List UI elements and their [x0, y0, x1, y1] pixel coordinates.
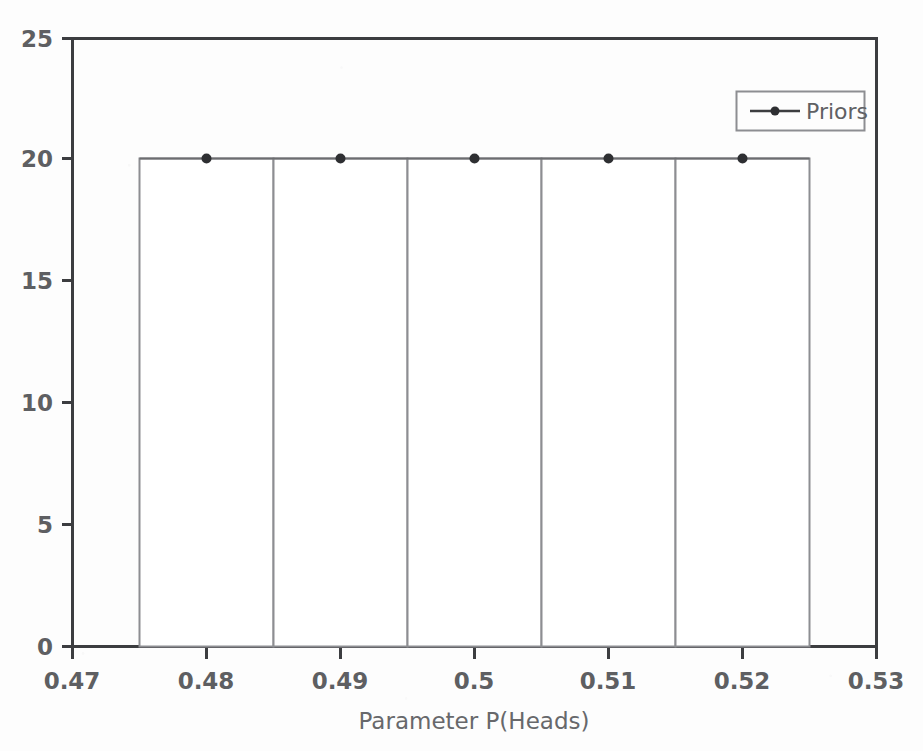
y-tick-label-25: 25 — [21, 26, 53, 52]
y-axis-ticks — [62, 39, 72, 647]
legend-entry-label: Priors — [806, 99, 868, 124]
y-tick-label-15: 15 — [21, 268, 53, 294]
histogram-bars — [140, 159, 810, 647]
chart-legend[interactable]: Priors — [737, 92, 869, 131]
bar-0.52 — [676, 159, 810, 647]
x-tick-label-0.49: 0.49 — [312, 668, 369, 694]
y-tick-label-20: 20 — [21, 146, 53, 172]
x-tick-label-0.53: 0.53 — [848, 668, 905, 694]
y-tick-label-10: 10 — [21, 390, 53, 416]
x-axis-ticks — [73, 647, 877, 659]
x-tick-label-0.51: 0.51 — [580, 668, 637, 694]
priors-histogram-chart: 25 20 15 10 5 0 0.47 0.48 0.49 0.5 0.51 … — [0, 0, 923, 751]
data-point-0.49 — [336, 154, 346, 164]
y-axis-tick-labels: 25 20 15 10 5 0 — [21, 26, 53, 660]
data-point-0.48 — [202, 154, 212, 164]
data-point-0.51 — [604, 154, 614, 164]
bar-0.51 — [542, 159, 676, 647]
bar-0.48 — [140, 159, 274, 647]
x-tick-label-0.52: 0.52 — [714, 668, 771, 694]
y-tick-label-0: 0 — [37, 634, 53, 660]
legend-marker-icon — [771, 107, 780, 116]
bar-0.49 — [274, 159, 408, 647]
y-tick-label-5: 5 — [37, 512, 53, 538]
x-axis-title: Parameter P(Heads) — [359, 708, 590, 734]
x-tick-label-0.48: 0.48 — [178, 668, 235, 694]
data-point-0.5 — [470, 154, 480, 164]
data-point-0.52 — [738, 154, 748, 164]
x-axis-tick-labels: 0.47 0.48 0.49 0.5 0.51 0.52 0.53 — [44, 668, 905, 694]
chart-figure: 25 20 15 10 5 0 0.47 0.48 0.49 0.5 0.51 … — [0, 0, 923, 751]
x-tick-label-0.47: 0.47 — [44, 668, 101, 694]
x-tick-label-0.5: 0.5 — [454, 668, 495, 694]
bar-0.5 — [408, 159, 542, 647]
